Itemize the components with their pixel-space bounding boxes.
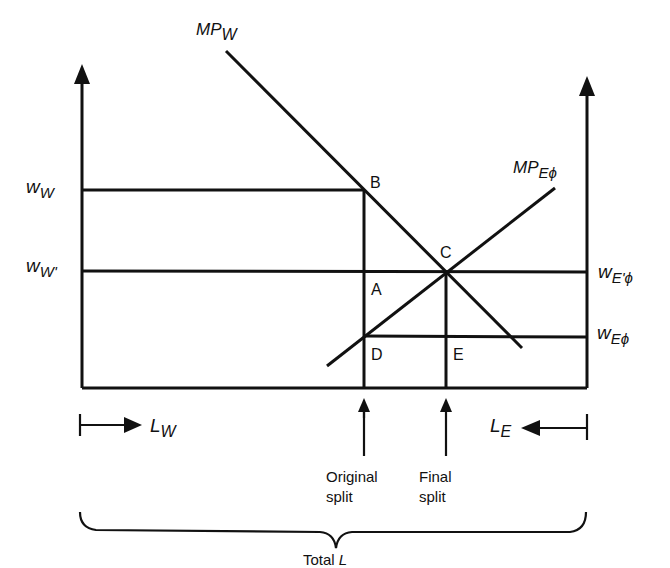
- svg-text:wE'ϕ: wE'ϕ: [598, 261, 633, 286]
- svg-text:wW': wW': [26, 255, 58, 280]
- w-e-prime-label: wE'ϕ: [598, 261, 633, 286]
- final-split-arrow-icon: [440, 398, 452, 456]
- l-w-label: LW: [150, 415, 178, 440]
- right-axis-arrow-icon: [579, 76, 595, 96]
- final-split-label: Final split: [419, 468, 452, 505]
- svg-text:wEϕ: wEϕ: [597, 322, 629, 347]
- wage-line-w-w-prime: [82, 271, 587, 272]
- l-e-label: LE: [490, 415, 512, 440]
- point-b-label: B: [370, 174, 381, 191]
- mp-e-curve: [327, 188, 555, 366]
- right-axis: [579, 76, 595, 388]
- svg-text:Final: Final: [419, 468, 452, 485]
- svg-text:split: split: [326, 488, 354, 505]
- point-d-label: D: [371, 346, 383, 363]
- point-e-label: E: [453, 346, 464, 363]
- total-l-label: Total L: [303, 551, 347, 568]
- svg-text:LE: LE: [490, 415, 512, 440]
- mp-w-curve: [226, 51, 522, 348]
- point-c-label: C: [440, 244, 452, 261]
- l-w-direction-arrow-icon: [80, 414, 142, 436]
- point-a-label: A: [371, 281, 382, 298]
- w-w-prime-label: wW': [26, 255, 58, 280]
- mp-e-label: MPEϕ: [513, 158, 557, 181]
- mp-w-label: MPW: [196, 20, 239, 43]
- original-split-label: Original split: [326, 468, 378, 505]
- svg-text:LW: LW: [150, 415, 178, 440]
- svg-text:wW: wW: [26, 176, 56, 201]
- svg-text:MPW: MPW: [196, 20, 239, 43]
- left-axis: [74, 64, 90, 388]
- l-e-direction-arrow-icon: [521, 414, 587, 440]
- left-axis-arrow-icon: [74, 64, 90, 84]
- svg-text:MPEϕ: MPEϕ: [513, 158, 557, 181]
- svg-text:split: split: [419, 488, 447, 505]
- w-e-label: wEϕ: [597, 322, 629, 347]
- total-l-brace: [80, 512, 586, 548]
- svg-text:Total L: Total L: [303, 551, 347, 568]
- original-split-arrow-icon: [358, 398, 370, 456]
- labor-split-diagram: MPW MPEϕ wW wW' wE'ϕ wEϕ B C A D E Origi…: [0, 0, 670, 568]
- w-w-label: wW: [26, 176, 56, 201]
- svg-text:Original: Original: [326, 468, 378, 485]
- wage-line-w-e: [364, 336, 587, 337]
